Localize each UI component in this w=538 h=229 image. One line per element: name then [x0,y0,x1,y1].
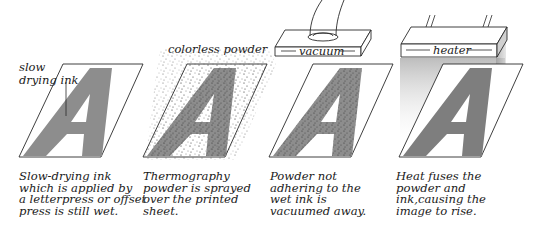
label-heater: heater [433,43,472,57]
caption-step-1: Slow-drying ink which is applied by a le… [19,169,150,218]
panel-1-slow-drying-ink: slow drying ink Slow-drying ink which is… [19,60,150,218]
label-vacuum: vacuum [299,44,345,58]
caption-step-2: Thermography powder is sprayed over the … [143,169,255,218]
caption-step-3: Powder not adhering to the wet ink is va… [269,169,366,218]
panel-3-vacuum: vacuum Powder not adhering to the wet in… [269,0,393,218]
panel-4-heater: heater Heat fuses the powder and ink,cau… [395,15,523,218]
caption-step-4: Heat fuses the powder and ink,causing th… [395,169,490,218]
thermography-diagram: slow drying ink Slow-drying ink which is… [0,0,538,229]
panel-2-powder-spray: colorless powder Thermography powder is … [143,42,276,218]
label-colorless-powder: colorless powder [168,42,269,56]
